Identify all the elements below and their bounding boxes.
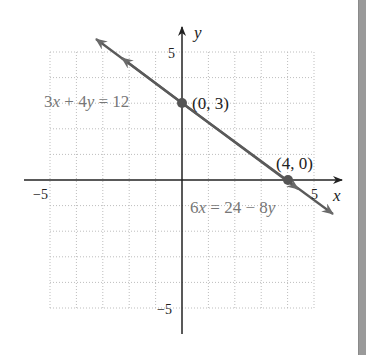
axis-label-y: y	[192, 23, 202, 42]
line-6x-24-8y-lower	[182, 103, 298, 189]
tick-y-pos5: 5	[168, 46, 175, 61]
equation-label-1: 3x + 4y = 12	[44, 92, 129, 111]
point-0-3	[177, 98, 187, 108]
point-label-0-3: (0, 3)	[192, 94, 229, 113]
tick-x-neg5: −5	[33, 187, 48, 202]
equation-label-2: 6x = 24 − 8y	[190, 198, 276, 217]
axis-label-x: x	[332, 186, 341, 205]
line-6x-24-8y	[122, 58, 182, 103]
point-4-0	[283, 175, 293, 185]
point-label-4-0: (4, 0)	[276, 154, 313, 173]
tick-x-pos5: 5	[311, 187, 318, 202]
tick-y-neg5: −5	[157, 302, 172, 317]
page-edge-bar	[358, 0, 366, 355]
